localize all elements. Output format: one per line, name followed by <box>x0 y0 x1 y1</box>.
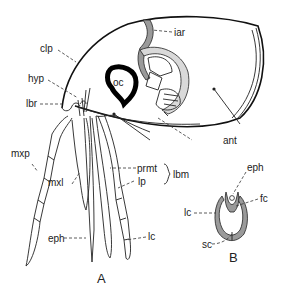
panel-label-b: B <box>229 250 238 265</box>
label-iar: iar <box>174 27 186 38</box>
label-clp: clp <box>40 43 53 54</box>
compound-eye: oc <box>108 67 137 104</box>
label-oc: oc <box>113 77 124 88</box>
label-b-eph: eph <box>247 162 264 173</box>
label-ant: ant <box>223 135 237 146</box>
label-b-fc: fc <box>260 193 268 204</box>
labrum-hypopharynx <box>62 88 90 116</box>
label-b-lc: lc <box>184 207 191 218</box>
panel-b-labels: eph fc lc sc B <box>184 162 268 265</box>
label-mxl: mxl <box>48 177 64 188</box>
label-b-sc: sc <box>202 239 212 250</box>
label-mxp: mxp <box>11 148 30 159</box>
diagram-canvas: oc <box>0 0 283 294</box>
cross-section <box>215 192 248 241</box>
label-lc: lc <box>148 231 155 242</box>
label-prmt: prmt <box>137 163 157 174</box>
label-eph: eph <box>48 233 65 244</box>
panel-label-a: A <box>97 271 106 286</box>
maxilla <box>72 116 94 262</box>
label-lbr: lbr <box>26 98 38 109</box>
insect-head-mouthparts-figure: oc <box>0 0 283 294</box>
label-lp: lp <box>138 176 146 187</box>
label-lbm: lbm <box>173 169 189 180</box>
label-hyp: hyp <box>28 73 45 84</box>
